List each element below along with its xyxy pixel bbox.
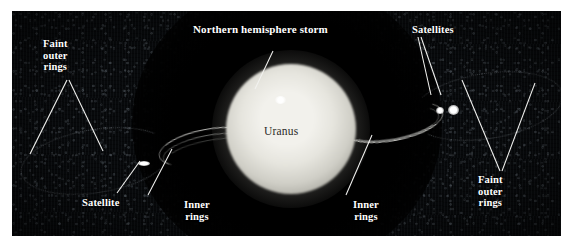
label-satellite-left: Satellite xyxy=(82,197,120,209)
label-satellites-right: Satellites xyxy=(412,24,454,36)
leader-line-outer-rings-left-b xyxy=(69,80,103,151)
label-faint-outer-rings-left: Faint outer rings xyxy=(43,38,68,73)
leader-line-outer-rings-left-a xyxy=(30,80,67,154)
label-northern-hemisphere-storm: Northern hemisphere storm xyxy=(193,24,328,36)
leader-line-storm xyxy=(255,51,273,89)
leader-line-outer-rings-right-a xyxy=(462,80,500,171)
leader-line-outer-rings-right-b xyxy=(502,83,535,171)
label-faint-outer-rings-right: Faint outer rings xyxy=(478,174,503,209)
leader-line-satellite-left xyxy=(117,161,140,193)
label-inner-rings-left: Inner rings xyxy=(184,199,210,222)
leader-line-inner-rings-right xyxy=(346,135,372,195)
uranus-annotated-figure: Northern hemisphere storm Uranus Satelli… xyxy=(0,0,571,248)
leader-line-inner-rings-left xyxy=(148,149,172,195)
label-inner-rings-right: Inner rings xyxy=(353,199,379,222)
photograph-canvas: Northern hemisphere storm Uranus Satelli… xyxy=(12,11,561,236)
label-uranus: Uranus xyxy=(264,125,298,137)
